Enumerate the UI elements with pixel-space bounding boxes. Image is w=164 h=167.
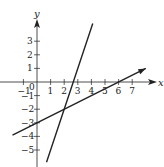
x-tick-label: 7 xyxy=(129,86,135,96)
y-tick-label: −3 xyxy=(21,118,35,128)
series-line-1 xyxy=(47,24,93,163)
y-tick-label: −5 xyxy=(21,145,35,155)
y-tick-label: 1 xyxy=(27,63,33,73)
y-tick-label: −1 xyxy=(21,91,34,101)
x-axis-label: x xyxy=(158,77,164,88)
line-arrow-icon xyxy=(138,68,146,74)
x-tick-label: 3 xyxy=(75,86,81,96)
x-tick-label: 2 xyxy=(61,86,67,96)
y-tick-label: −4 xyxy=(21,131,35,141)
series-line-2 xyxy=(13,68,146,135)
y-axis-label: y xyxy=(33,8,40,19)
x-tick-label: 6 xyxy=(116,86,122,96)
y-tick-label: 2 xyxy=(27,50,33,60)
y-tick-label: 3 xyxy=(27,36,33,46)
line-chart: xy−101234567321−1−2−3−4−5 xyxy=(0,0,164,167)
y-tick-label: −2 xyxy=(21,104,34,114)
x-tick-label: 1 xyxy=(48,86,54,96)
